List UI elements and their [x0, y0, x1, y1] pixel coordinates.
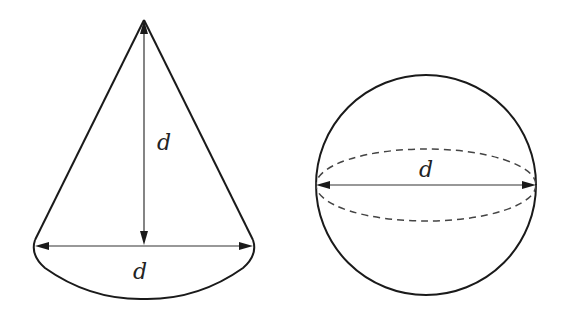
- diagram-canvas: d d d: [0, 0, 561, 316]
- sphere-figure: d: [316, 75, 536, 295]
- arrowhead-left-icon: [35, 242, 49, 250]
- arrowhead-left-icon: [316, 181, 330, 189]
- arrowhead-down-icon: [140, 231, 148, 245]
- cone-left-side: [35, 20, 144, 240]
- arrowhead-right-icon: [239, 242, 253, 250]
- sphere-diameter-label: d: [419, 157, 433, 182]
- cone-figure: d d: [34, 20, 255, 299]
- cone-diameter-label: d: [133, 259, 147, 284]
- cone-height-label: d: [157, 130, 171, 155]
- arrowhead-right-icon: [522, 181, 536, 189]
